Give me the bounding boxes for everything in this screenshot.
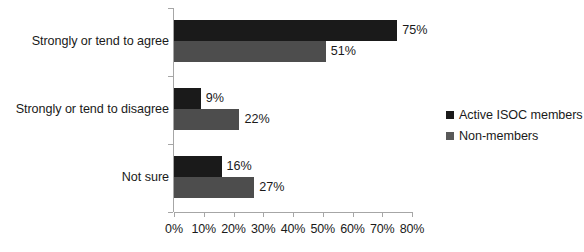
y-axis-tick — [168, 212, 173, 213]
legend-swatch-icon — [446, 132, 454, 140]
x-axis-tick — [234, 212, 235, 217]
y-axis-tick — [168, 144, 173, 145]
y-axis-tick — [168, 8, 173, 9]
bar-value-label: 27% — [259, 177, 284, 198]
bar — [174, 20, 397, 41]
y-axis-tick — [168, 76, 173, 77]
x-axis-tick-label: 20% — [221, 222, 246, 236]
x-axis-tick-label: 0% — [165, 222, 183, 236]
category-label: Not sure — [0, 170, 169, 184]
x-axis-tick-label: 60% — [340, 222, 365, 236]
legend-item[interactable]: Non-members — [446, 125, 583, 146]
legend-item[interactable]: Active ISOC members — [446, 104, 583, 125]
bar — [174, 88, 201, 109]
x-axis-tick — [204, 212, 205, 217]
x-axis-tick — [263, 212, 264, 217]
legend-label: Non-members — [459, 129, 538, 143]
x-axis-tick — [323, 212, 324, 217]
x-axis-tick-label: 40% — [281, 222, 306, 236]
bar-value-label: 22% — [244, 109, 269, 130]
bar — [174, 177, 254, 198]
x-axis-tick — [412, 212, 413, 217]
bar-chart: 0%10%20%30%40%50%60%70%80% Strongly or t… — [0, 0, 584, 252]
x-axis-tick-label: 30% — [251, 222, 276, 236]
category-label: Strongly or tend to disagree — [0, 102, 169, 116]
bar-value-label: 16% — [227, 156, 252, 177]
chart-legend: Active ISOC membersNon-members — [446, 104, 583, 146]
bar-value-label: 9% — [206, 88, 224, 109]
x-axis-tick-label: 50% — [310, 222, 335, 236]
legend-label: Active ISOC members — [459, 108, 583, 122]
legend-swatch-icon — [446, 111, 454, 119]
bar — [174, 109, 239, 130]
x-axis-tick-label: 70% — [370, 222, 395, 236]
x-axis-tick — [174, 212, 175, 217]
x-axis-tick — [353, 212, 354, 217]
bar — [174, 41, 326, 62]
bar-value-label: 75% — [402, 20, 427, 41]
x-axis-tick-label: 80% — [400, 222, 425, 236]
bar-value-label: 51% — [331, 41, 356, 62]
category-label: Strongly or tend to agree — [0, 34, 169, 48]
bar — [174, 156, 222, 177]
x-axis-tick — [382, 212, 383, 217]
x-axis-tick-label: 10% — [191, 222, 216, 236]
x-axis-tick — [293, 212, 294, 217]
